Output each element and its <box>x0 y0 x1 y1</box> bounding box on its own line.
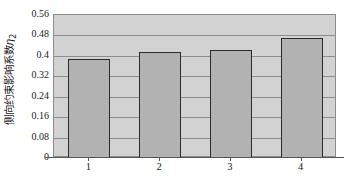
y-axis-tick-label: 0.4 <box>37 50 50 60</box>
y-axis-tick-label: 0.16 <box>32 111 50 121</box>
y-axis-title: 侧向约束影响系数η2 <box>1 34 18 126</box>
y-axis-tick-label: 0.32 <box>32 70 50 80</box>
plot-area <box>53 14 336 157</box>
y-axis-tick-label: 0.56 <box>32 9 50 19</box>
y-axis-tick-label: 0.24 <box>32 91 50 101</box>
bar <box>68 59 110 158</box>
gridline <box>54 35 335 36</box>
x-axis-tick-label: 4 <box>298 162 303 173</box>
y-axis-title-symbol: η <box>3 39 15 46</box>
y-axis-tick-label: 0.48 <box>32 29 50 39</box>
bar <box>210 50 252 158</box>
y-axis-tick-label: 0.08 <box>32 132 50 142</box>
bar-chart-figure: 侧向约束影响系数η2 00.080.160.240.320.40.480.56 … <box>0 0 353 185</box>
x-axis-line <box>45 157 344 158</box>
bar <box>281 38 323 158</box>
y-axis-title-container: 侧向约束影响系数η2 <box>0 0 20 160</box>
x-axis-tick-label: 3 <box>227 162 232 173</box>
x-axis-tick-label: 2 <box>157 162 162 173</box>
y-axis-title-text: 侧向约束影响系数 <box>3 46 15 126</box>
bar <box>139 52 181 158</box>
x-axis-tick-label: 1 <box>86 162 91 173</box>
